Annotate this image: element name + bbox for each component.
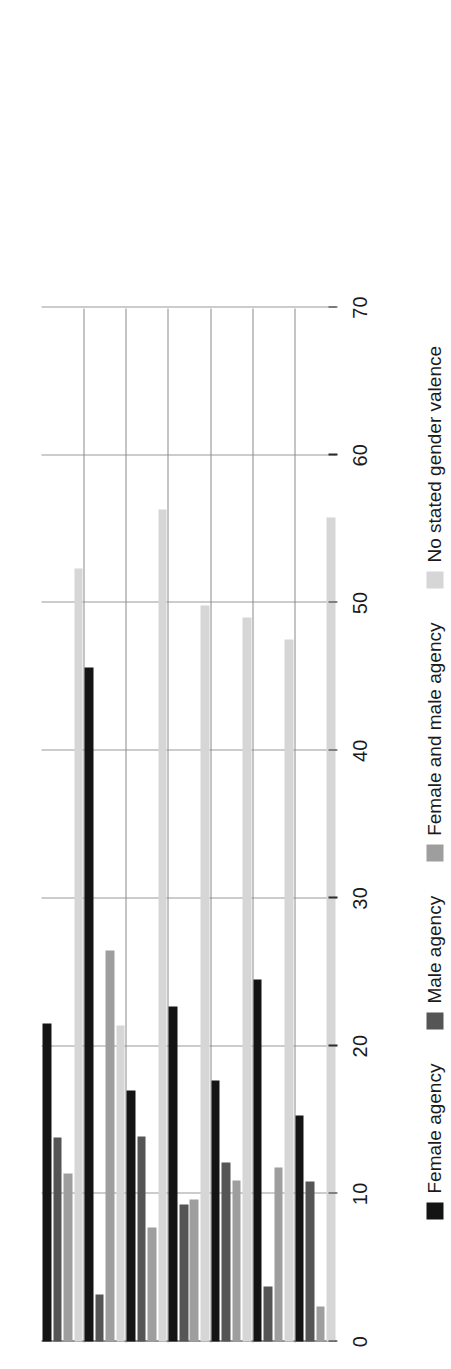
legend-item: Female agency — [423, 1063, 445, 1219]
bar — [316, 1306, 325, 1341]
tick-50 — [328, 601, 337, 602]
tick-label-30: 30 — [348, 876, 371, 920]
bar — [326, 517, 335, 1341]
bar-group: Male nonjournalist (134) — [167, 307, 209, 1341]
legend-swatch — [426, 844, 443, 861]
tick-70 — [328, 306, 337, 307]
bar — [211, 1080, 220, 1341]
legend-label: Female and male agency — [423, 622, 445, 835]
legend-item: Male agency — [423, 895, 445, 1029]
bar-group: Male/likely male (531) — [125, 307, 167, 1341]
tick-label-10: 10 — [348, 1171, 371, 1215]
bar — [53, 1137, 62, 1341]
chart-page: All (605)Female (74)Male/likely male (53… — [0, 0, 451, 1369]
bar — [274, 1167, 283, 1341]
bar — [158, 509, 167, 1341]
bar-chart: All (605)Female (74)Male/likely male (53… — [0, 0, 451, 1369]
bar — [126, 1090, 135, 1341]
bar — [84, 667, 93, 1341]
tick-label-20: 20 — [348, 1024, 371, 1068]
bar — [305, 1181, 314, 1341]
bar-group: All (605) — [41, 307, 83, 1341]
bar — [105, 950, 114, 1341]
tick-label-60: 60 — [348, 433, 371, 477]
legend-label: Female agency — [423, 1063, 445, 1193]
tick-20 — [328, 1044, 337, 1045]
bar-group: Support pronatalism (335) — [210, 307, 252, 1341]
tick-label-0: 0 — [348, 1319, 371, 1363]
bar-groups: All (605)Female (74)Male/likely male (53… — [41, 307, 336, 1341]
legend-label: No stated gender valence — [423, 345, 445, 562]
bar — [137, 1136, 146, 1341]
bar — [263, 1286, 272, 1341]
legend-label: Male agency — [423, 895, 445, 1003]
bar — [189, 1199, 198, 1341]
bar — [200, 605, 209, 1341]
bar-group: Female (74) — [83, 307, 125, 1341]
bar-group: Neutral/ambivalent (178) — [294, 307, 336, 1341]
bar — [116, 1025, 125, 1341]
rotated-figure: All (605)Female (74)Male/likely male (53… — [0, 0, 451, 1369]
bar — [221, 1162, 230, 1341]
bar — [168, 1006, 177, 1341]
bar — [295, 1115, 304, 1341]
tick-label-50: 50 — [348, 580, 371, 624]
bar — [232, 1180, 241, 1341]
bar — [74, 568, 83, 1341]
tick-label-40: 40 — [348, 728, 371, 772]
legend-item: No stated gender valence — [423, 345, 445, 588]
bar-group: Oppose pronatalism (92) — [252, 307, 294, 1341]
legend-swatch — [426, 1202, 443, 1219]
bar — [253, 979, 262, 1341]
bar — [179, 1204, 188, 1341]
tick-label-70: 70 — [348, 285, 371, 329]
tick-60 — [328, 453, 337, 454]
legend-swatch — [426, 1012, 443, 1029]
chart-legend: Female agencyMale agencyFemale and male … — [423, 345, 445, 1219]
tick-40 — [328, 749, 337, 750]
bar — [63, 1173, 72, 1341]
bar — [42, 1023, 51, 1341]
legend-swatch — [426, 571, 443, 588]
tick-30 — [328, 896, 337, 897]
bar — [284, 639, 293, 1341]
plot-area: All (605)Female (74)Male/likely male (53… — [41, 307, 336, 1341]
bar — [147, 1227, 156, 1341]
axis-ticks: 010203040506070 — [336, 307, 337, 1341]
tick-10 — [328, 1192, 337, 1193]
tick-0 — [328, 1340, 337, 1341]
legend-item: Female and male agency — [423, 622, 445, 861]
bar — [242, 617, 251, 1341]
bar — [95, 1294, 104, 1341]
